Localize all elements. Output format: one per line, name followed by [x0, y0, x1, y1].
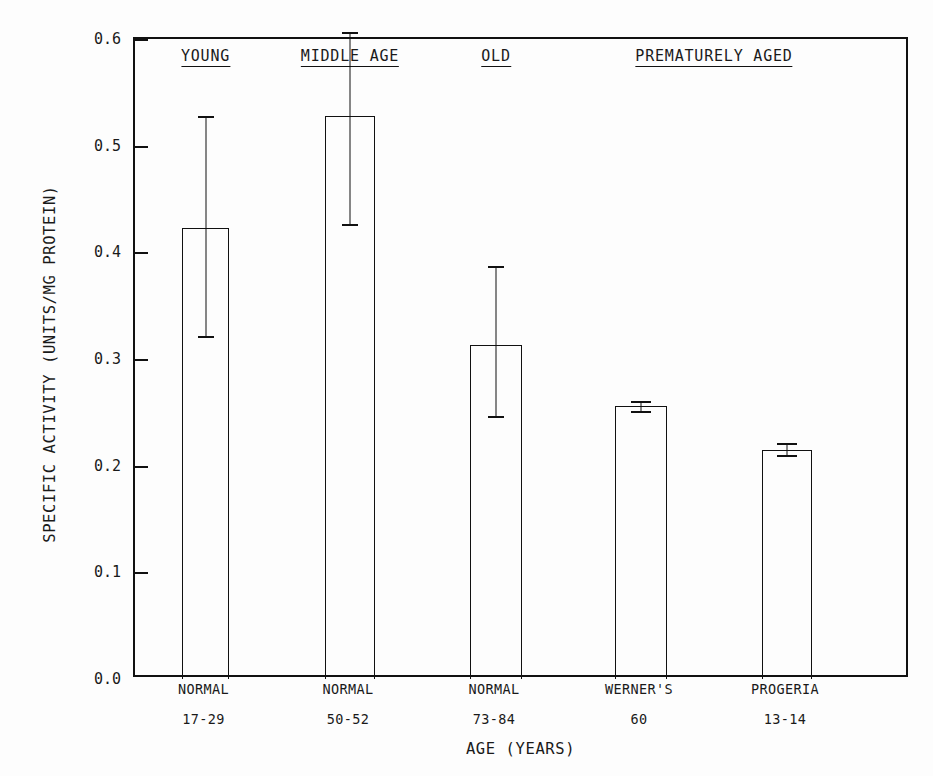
y-tick-mark — [135, 146, 148, 148]
group-header-label: PREMATURELY AGED — [635, 47, 792, 67]
x-category-name: PROGERIA — [751, 683, 819, 697]
y-tick-label: 0.5 — [57, 138, 121, 153]
y-tick-label: 0.4 — [57, 245, 121, 260]
error-bar-cap-upper — [631, 401, 651, 403]
error-bar-cap-upper — [777, 443, 797, 445]
bar — [615, 406, 667, 679]
x-category-name: NORMAL — [468, 683, 519, 697]
y-tick-mark — [135, 572, 148, 574]
figure-canvas: SPECIFIC ACTIVITY (UNITS/MG PROTEIN) AGE… — [0, 0, 933, 776]
plot-area: 0.00.10.20.30.40.50.6 YOUNGMIDDLE AGEOLD… — [133, 37, 908, 677]
error-bar-cap-lower — [777, 455, 797, 457]
error-bar-stem — [496, 266, 497, 415]
y-tick-label: 0.1 — [57, 565, 121, 580]
error-bar-cap-upper — [342, 32, 358, 34]
error-bar-stem — [205, 116, 206, 336]
x-category-label: NORMAL73-84 — [468, 683, 519, 726]
group-header-label: YOUNG — [181, 47, 230, 67]
x-category-age-range: 17-29 — [178, 713, 229, 727]
error-bar-cap-lower — [342, 224, 358, 226]
y-tick-mark — [135, 359, 148, 361]
x-category-name: NORMAL — [178, 683, 229, 697]
x-category-label: WERNER'S60 — [605, 683, 673, 726]
error-bar-stem — [350, 32, 351, 224]
x-category-age-range: 50-52 — [322, 713, 373, 727]
y-tick-mark — [135, 39, 148, 41]
error-bar-cap-lower — [198, 336, 214, 338]
x-category-age-range: 13-14 — [751, 713, 819, 727]
y-tick-label: 0.3 — [57, 352, 121, 367]
y-tick-label: 0.2 — [57, 458, 121, 473]
y-tick-label: 0.0 — [57, 672, 121, 687]
error-bar-cap-upper — [488, 266, 504, 268]
x-category-label: NORMAL17-29 — [178, 683, 229, 726]
x-category-age-range: 73-84 — [468, 713, 519, 727]
x-axis-title: AGE (YEARS) — [133, 740, 908, 758]
bar — [762, 450, 812, 679]
x-category-age-range: 60 — [605, 713, 673, 727]
x-category-label: PROGERIA13-14 — [751, 683, 819, 726]
x-category-name: NORMAL — [322, 683, 373, 697]
y-tick-mark — [135, 466, 148, 468]
x-category-label: NORMAL50-52 — [322, 683, 373, 726]
error-bar-cap-upper — [198, 116, 214, 118]
y-tick-label: 0.6 — [57, 32, 121, 47]
x-category-name: WERNER'S — [605, 683, 673, 697]
y-tick-mark — [135, 252, 148, 254]
error-bar-cap-lower — [488, 416, 504, 418]
group-header-label: OLD — [481, 47, 511, 67]
error-bar-cap-lower — [631, 411, 651, 413]
